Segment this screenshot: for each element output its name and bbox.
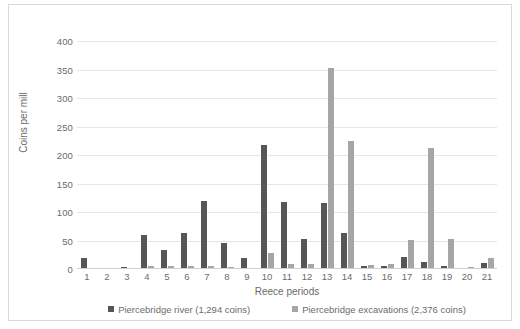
- bar: [141, 235, 147, 269]
- legend-item: Piercebridge river (1,294 coins): [108, 304, 250, 315]
- x-axis-tick-label: 19: [436, 271, 458, 282]
- bar-group: [117, 41, 137, 269]
- bar-group: [377, 41, 397, 269]
- x-axis-line: [77, 268, 497, 269]
- bar: [348, 141, 354, 269]
- bar: [408, 240, 414, 269]
- y-axis-tick-labels: 050100150200250300350400: [9, 5, 73, 320]
- x-axis-tick-label: 13: [316, 271, 338, 282]
- bar-group: [77, 41, 97, 269]
- bar-group: [357, 41, 377, 269]
- y-axis-tick-label: 400: [13, 36, 73, 47]
- bar: [301, 239, 307, 269]
- y-axis-tick-label: 200: [13, 150, 73, 161]
- bar: [261, 145, 267, 269]
- y-axis-tick-label: 100: [13, 207, 73, 218]
- bar-group: [417, 41, 437, 269]
- x-axis-tick-label: 2: [96, 271, 118, 282]
- bar-group: [297, 41, 317, 269]
- x-axis-tick-label: 18: [416, 271, 438, 282]
- bar-group: [257, 41, 277, 269]
- bar: [328, 68, 334, 269]
- bar-group: [457, 41, 477, 269]
- plot-area: [77, 41, 497, 269]
- bar: [281, 202, 287, 269]
- chart-container: Coins per mill 050100150200250300350400 …: [8, 4, 512, 321]
- chart-legend: Piercebridge river (1,294 coins)Piercebr…: [77, 301, 497, 317]
- bar: [181, 233, 187, 269]
- bar-group: [277, 41, 297, 269]
- bar: [428, 148, 434, 269]
- bar-group: [177, 41, 197, 269]
- legend-swatch: [292, 306, 298, 312]
- x-axis-tick-label: 4: [136, 271, 158, 282]
- x-axis-tick-label: 7: [196, 271, 218, 282]
- x-axis-tick-label: 10: [256, 271, 278, 282]
- x-axis-tick-label: 17: [396, 271, 418, 282]
- bar: [448, 239, 454, 269]
- bar-group: [437, 41, 457, 269]
- x-axis-tick-label: 9: [236, 271, 258, 282]
- y-axis-tick-label: 0: [13, 264, 73, 275]
- legend-item: Piercebridge excavations (2,376 coins): [292, 304, 466, 315]
- bar: [268, 253, 274, 269]
- x-axis-tick-label: 11: [276, 271, 298, 282]
- x-axis-tick-label: 5: [156, 271, 178, 282]
- x-axis-tick-label: 12: [296, 271, 318, 282]
- bar-group: [397, 41, 417, 269]
- legend-swatch: [108, 306, 114, 312]
- legend-label: Piercebridge excavations (2,376 coins): [302, 304, 466, 315]
- bar-group: [157, 41, 177, 269]
- bar-group: [317, 41, 337, 269]
- bar: [321, 203, 327, 269]
- bar: [341, 233, 347, 269]
- bar-group: [197, 41, 217, 269]
- x-axis-tick-label: 16: [376, 271, 398, 282]
- y-axis-tick-label: 300: [13, 93, 73, 104]
- bar: [221, 243, 227, 269]
- x-axis-tick-labels: 123456789101112131415161718192021: [77, 271, 497, 285]
- bar-group: [237, 41, 257, 269]
- bar-group: [217, 41, 237, 269]
- x-axis-title: Reece periods: [77, 286, 497, 297]
- y-axis-tick-label: 150: [13, 178, 73, 189]
- y-axis-tick-label: 350: [13, 64, 73, 75]
- x-axis-tick-label: 6: [176, 271, 198, 282]
- x-axis-tick-label: 3: [116, 271, 138, 282]
- y-axis-tick-label: 250: [13, 121, 73, 132]
- bar-group: [337, 41, 357, 269]
- x-axis-tick-label: 8: [216, 271, 238, 282]
- x-axis-tick-label: 1: [76, 271, 98, 282]
- bar-group: [97, 41, 117, 269]
- y-axis-tick-label: 50: [13, 235, 73, 246]
- bar: [201, 201, 207, 269]
- x-axis-tick-label: 21: [476, 271, 498, 282]
- bar: [161, 250, 167, 269]
- legend-label: Piercebridge river (1,294 coins): [118, 304, 250, 315]
- x-axis-tick-label: 15: [356, 271, 378, 282]
- bar-group: [477, 41, 497, 269]
- x-axis-tick-label: 14: [336, 271, 358, 282]
- bar-group: [137, 41, 157, 269]
- x-axis-tick-label: 20: [456, 271, 478, 282]
